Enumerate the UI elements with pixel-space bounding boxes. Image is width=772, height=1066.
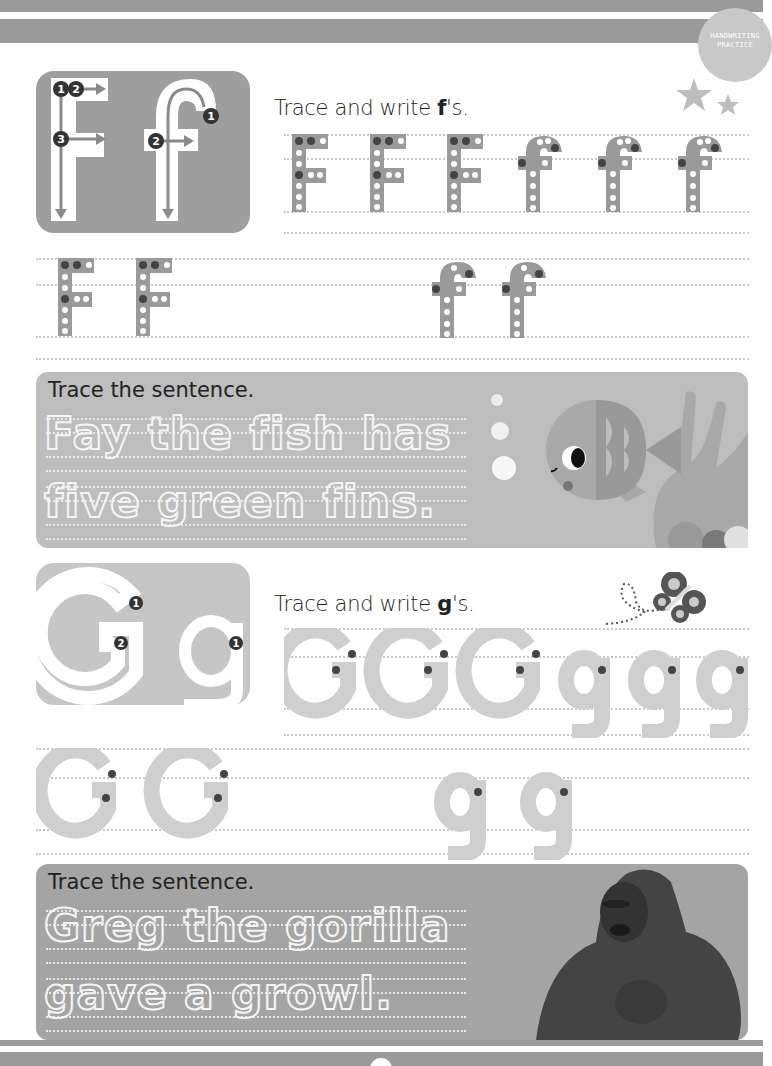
badge-line-1: HANDWRITING	[710, 32, 760, 40]
sentence-box-g: Trace the sentence. Greg the gorilla gav…	[36, 864, 748, 1040]
svg-text:1: 1	[233, 638, 240, 649]
svg-text:2: 2	[152, 135, 160, 148]
guide-line-desc	[46, 538, 466, 540]
svg-text:1: 1	[207, 110, 215, 123]
svg-text:2: 2	[118, 638, 125, 649]
sentence-title: Trace the sentence.	[48, 378, 254, 402]
guide-line-desc	[36, 358, 749, 360]
stars-icon	[676, 76, 746, 121]
prompt-trace-f: Trace and write f's.	[274, 96, 469, 120]
prompt-text: Trace and write	[274, 96, 437, 120]
gorilla-photo	[506, 852, 748, 1042]
trace-sentence-line-2: gave a growl.	[44, 968, 393, 1019]
f-trace-row-1	[290, 134, 750, 214]
guide-line-desc	[284, 232, 749, 234]
sentence-box-f: Trace the sentence. Fay the fish has fiv…	[36, 372, 748, 548]
svg-text:1: 1	[57, 83, 65, 96]
letter-card-f: 1 2 3 1 2	[36, 71, 250, 233]
prompt-letter: g	[437, 592, 452, 616]
prompt-text: Trace and write	[274, 592, 437, 616]
trace-sentence-line-2: five green fins.	[44, 476, 436, 527]
prompt-trace-g: Trace and write g's.	[274, 592, 474, 616]
butterfly-icon	[604, 572, 714, 632]
guide-line-desc	[46, 470, 466, 472]
f-trace-row-2	[56, 258, 576, 340]
header-band-top	[0, 0, 763, 12]
g-trace-row-1	[284, 628, 754, 738]
section-badge: HANDWRITING PRACTICE	[698, 8, 772, 82]
header-band-stripe	[0, 12, 763, 19]
header-band-bottom	[0, 19, 763, 43]
svg-text:2: 2	[72, 83, 80, 96]
trace-sentence-line-1: Fay the fish has	[44, 408, 452, 459]
prompt-suffix: 's.	[452, 592, 475, 616]
fish-coral-illustration	[476, 372, 748, 548]
svg-text:3: 3	[57, 133, 65, 146]
letter-f-stroke-guide-icon: 1 2 3 1 2	[36, 71, 250, 233]
letter-card-g: 1 2 1	[36, 563, 250, 705]
badge-line-2: PRACTICE	[717, 41, 753, 49]
sentence-title: Trace the sentence.	[48, 870, 254, 894]
guide-line-desc	[46, 962, 466, 964]
svg-text:1: 1	[133, 598, 140, 609]
letter-g-stroke-guide-icon: 1 2 1	[36, 563, 250, 705]
guide-line-desc	[46, 1030, 466, 1032]
prompt-suffix: 's.	[446, 96, 469, 120]
trace-sentence-line-1: Greg the gorilla	[44, 900, 450, 951]
g-trace-row-2	[36, 748, 596, 860]
prompt-letter: f	[437, 96, 446, 120]
